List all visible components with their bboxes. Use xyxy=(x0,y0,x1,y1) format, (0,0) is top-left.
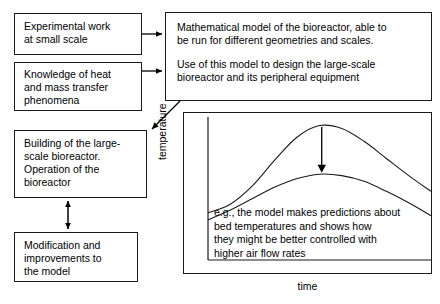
box-mathematical-model: Mathematical model of the bioreactor, ab… xyxy=(165,12,432,101)
box-mathematical-model-paragraph-1: Mathematical model of the bioreactor, ab… xyxy=(177,21,431,47)
box-knowledge-heat-mass-transfer-label: Knowledge of heat and mass transfer phen… xyxy=(24,68,141,107)
air-flow-effect-arrow xyxy=(318,127,326,173)
diagram-canvas: Experimental work at small scale Knowled… xyxy=(0,0,440,304)
box-experimental-work: Experimental work at small scale xyxy=(14,13,142,55)
chart-y-axis-label: temperature xyxy=(156,60,168,160)
box-building-large-scale-bioreactor-label: Building of the large- scale bioreactor.… xyxy=(24,137,146,189)
chart-panel: e.g., the model makes predictions about … xyxy=(183,112,432,274)
box-modification-improvements-label: Modification and improvements to the mod… xyxy=(24,239,137,278)
chart-x-axis-label: time xyxy=(183,280,432,292)
box-building-large-scale-bioreactor: Building of the large- scale bioreactor.… xyxy=(14,130,147,198)
box-experimental-work-label: Experimental work at small scale xyxy=(24,20,141,46)
box-knowledge-heat-mass-transfer: Knowledge of heat and mass transfer phen… xyxy=(14,62,142,111)
box-mathematical-model-paragraph-2: Use of this model to design the large-sc… xyxy=(177,58,431,84)
chart-caption: e.g., the model makes predictions about … xyxy=(214,206,430,260)
box-modification-improvements: Modification and improvements to the mod… xyxy=(14,232,138,282)
curve-low-air-flow xyxy=(208,125,431,213)
